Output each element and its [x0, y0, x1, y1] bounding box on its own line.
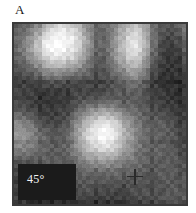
panel-letter-label: A	[15, 3, 25, 17]
angle-inset-box: 45°	[18, 164, 76, 200]
figure-panel: A 45°	[0, 0, 196, 213]
angle-annotation-label: 45°	[27, 173, 45, 186]
micrograph-frame: 45°	[12, 22, 188, 206]
